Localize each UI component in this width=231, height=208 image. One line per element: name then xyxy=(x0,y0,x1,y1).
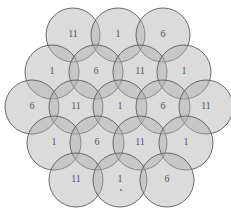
cell-channel-label: 1 xyxy=(184,136,189,147)
cell-channel-label: 6 xyxy=(30,100,35,111)
cell-channel-label: 6 xyxy=(161,28,166,39)
cell-channel-label: 11 xyxy=(68,28,78,39)
cell-channel-label: 1 xyxy=(118,100,123,111)
cell-channel-label: 6 xyxy=(161,100,166,111)
cell-channel-label: 11 xyxy=(71,100,81,111)
cell-channel-label: 1 xyxy=(50,65,55,76)
cell-channel-label: 6 xyxy=(94,65,99,76)
cell-channel-label: 1 xyxy=(182,65,187,76)
marker-dot xyxy=(120,189,122,191)
cell-channel-label: 6 xyxy=(95,136,100,147)
cell-channel-label: 6 xyxy=(165,173,170,184)
cell-channel-label: 11 xyxy=(71,173,81,184)
cell-channel-label: 11 xyxy=(135,136,145,147)
cell-channel-label: 1 xyxy=(118,173,123,184)
channel-cell-diagram: 1116161116111611161111116 xyxy=(0,0,231,208)
cell-channel-label: 1 xyxy=(52,136,57,147)
cell-channel-label: 11 xyxy=(201,100,211,111)
cell-channel-label: 1 xyxy=(116,28,121,39)
cell-channel-label: 11 xyxy=(135,65,145,76)
